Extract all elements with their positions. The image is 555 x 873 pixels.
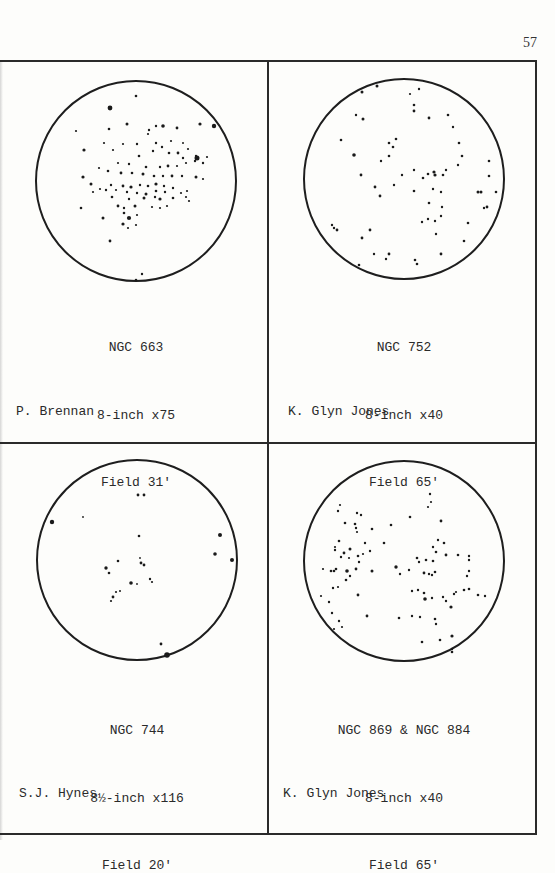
star-dot bbox=[213, 552, 217, 556]
star-dot bbox=[360, 514, 362, 516]
star-dot bbox=[105, 189, 107, 191]
star-dot bbox=[206, 156, 208, 158]
star-dot bbox=[167, 165, 170, 168]
grid-right-border bbox=[535, 60, 537, 835]
star-dot bbox=[355, 568, 358, 571]
star-dot bbox=[339, 504, 341, 506]
star-dot bbox=[334, 546, 336, 548]
star-dot bbox=[458, 142, 461, 145]
star-dot bbox=[418, 561, 420, 563]
star-dot bbox=[409, 516, 412, 519]
star-dot bbox=[344, 522, 347, 525]
star-dot bbox=[143, 564, 146, 567]
star-dot bbox=[145, 193, 148, 196]
star-dot bbox=[170, 140, 172, 142]
star-dot bbox=[345, 569, 349, 573]
star-dot bbox=[154, 196, 156, 198]
star-dot bbox=[148, 129, 150, 131]
star-dot bbox=[433, 173, 436, 176]
star-dot bbox=[408, 569, 410, 571]
star-dot bbox=[135, 95, 138, 98]
star-dot bbox=[104, 566, 107, 569]
star-dot bbox=[202, 178, 204, 180]
star-dot bbox=[333, 628, 335, 630]
star-dot bbox=[457, 554, 460, 557]
star-dot bbox=[393, 184, 395, 186]
star-dot bbox=[155, 142, 157, 144]
star-dot bbox=[98, 167, 100, 169]
star-dot bbox=[442, 174, 445, 177]
star-dot bbox=[445, 554, 448, 557]
star-dot bbox=[198, 122, 201, 125]
star-dot bbox=[151, 206, 153, 208]
star-dot bbox=[380, 160, 382, 162]
star-dot bbox=[147, 133, 149, 135]
star-dot bbox=[102, 217, 105, 220]
star-dot bbox=[374, 186, 377, 189]
observer-name: K. Glyn Jones bbox=[283, 786, 384, 801]
star-dot bbox=[439, 639, 442, 642]
star-dot bbox=[338, 620, 340, 622]
star-dot bbox=[155, 190, 158, 193]
star-dot bbox=[338, 540, 341, 543]
object-name: NGC 869 & NGC 884 bbox=[302, 720, 506, 743]
star-dot bbox=[369, 550, 371, 552]
star-dot bbox=[432, 546, 434, 548]
star-dot bbox=[110, 600, 112, 602]
star-dot bbox=[136, 192, 138, 194]
star-dot bbox=[362, 553, 364, 555]
eyepiece-field-drawing bbox=[302, 77, 506, 281]
star-dot bbox=[103, 142, 105, 144]
star-dot bbox=[495, 191, 498, 194]
star-dot bbox=[110, 184, 112, 186]
star-dot bbox=[218, 533, 222, 537]
star-dot bbox=[164, 191, 166, 193]
star-dot bbox=[107, 170, 110, 173]
star-dot bbox=[137, 494, 140, 497]
star-dot bbox=[413, 169, 415, 171]
star-dot bbox=[441, 206, 443, 208]
field-of-view: Field 20' bbox=[35, 855, 239, 873]
panel-caption: NGC 869 & NGC 884 8-inch x40 Field 65' bbox=[302, 675, 506, 873]
star-dot bbox=[151, 581, 153, 583]
star-dot bbox=[435, 551, 438, 554]
star-dot bbox=[176, 165, 178, 167]
star-dot bbox=[484, 595, 486, 597]
star-dot bbox=[371, 528, 374, 531]
star-dot bbox=[99, 188, 101, 190]
star-dot bbox=[136, 583, 138, 585]
star-dot bbox=[202, 162, 204, 164]
star-dot bbox=[468, 588, 471, 591]
star-dot bbox=[348, 557, 350, 559]
star-dot bbox=[356, 512, 358, 514]
star-dot bbox=[136, 214, 138, 216]
star-dot bbox=[466, 575, 468, 577]
star-dot bbox=[164, 652, 170, 658]
star-dot bbox=[430, 501, 432, 503]
star-dot bbox=[432, 170, 435, 173]
star-dot bbox=[453, 593, 455, 595]
star-dot bbox=[82, 148, 85, 151]
star-dot bbox=[371, 570, 374, 573]
field-circle bbox=[36, 81, 236, 281]
star-dot bbox=[331, 224, 333, 226]
star-dot bbox=[385, 258, 387, 260]
star-dot bbox=[431, 574, 433, 576]
star-dot bbox=[172, 197, 175, 200]
star-dot bbox=[425, 559, 428, 562]
star-dot bbox=[440, 520, 443, 523]
field-circle bbox=[304, 461, 504, 661]
star-dot bbox=[122, 185, 125, 188]
star-dot bbox=[392, 146, 395, 149]
star-dot bbox=[82, 516, 84, 518]
star-dot bbox=[135, 224, 137, 226]
star-dot bbox=[354, 523, 357, 526]
star-dot bbox=[366, 615, 369, 618]
star-dot bbox=[413, 110, 416, 113]
star-dot bbox=[423, 597, 427, 601]
star-dot bbox=[139, 557, 141, 559]
star-dot bbox=[362, 118, 365, 121]
star-dot bbox=[112, 596, 115, 599]
star-dot bbox=[128, 198, 130, 200]
star-dot bbox=[421, 641, 424, 644]
